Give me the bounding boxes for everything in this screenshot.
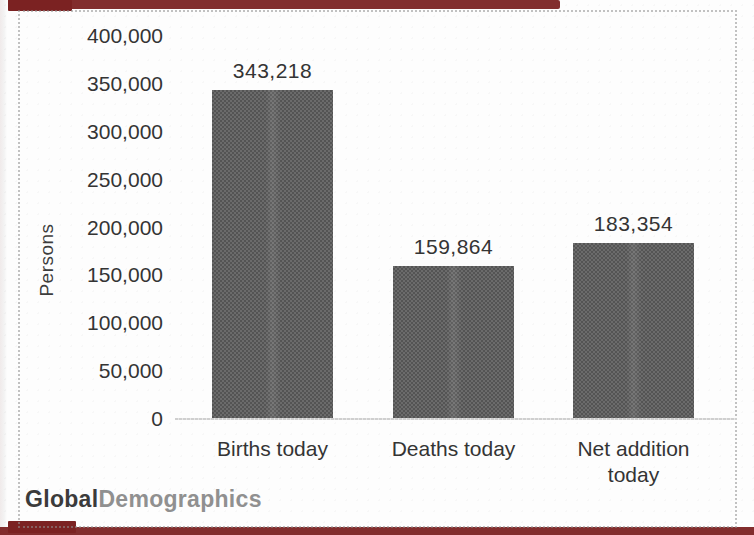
y-tick-label: 250,000 (40, 166, 163, 194)
bar-deaths-today (393, 266, 514, 419)
category-label: Deaths today (368, 436, 540, 462)
y-tick-label: 200,000 (40, 214, 163, 242)
y-tick-label: 0 (40, 405, 163, 433)
y-tick-label: 150,000 (40, 261, 163, 289)
x-axis-line (175, 418, 737, 420)
y-tick-label: 100,000 (40, 309, 163, 337)
y-tick-label: 350,000 (40, 70, 163, 98)
bar-net-addition-today (573, 243, 694, 419)
y-tick-label: 400,000 (40, 22, 163, 50)
y-tick-label: 300,000 (40, 118, 163, 146)
watermark: GlobalDemographics (25, 484, 262, 514)
bar-births-today (212, 90, 333, 419)
watermark-bold-part: Global (25, 486, 98, 512)
scanned-chart-page: Persons 050,000100,000150,000200,000250,… (0, 0, 754, 535)
page-edge-artifact-bottom (0, 527, 754, 535)
page-edge-artifact-top (8, 0, 560, 9)
watermark-light-part: Demographics (98, 486, 261, 512)
y-tick-label: 50,000 (40, 357, 163, 385)
category-label: Births today (187, 436, 359, 462)
category-label: Net addition today (558, 436, 710, 488)
bar-value-label: 183,354 (549, 210, 719, 238)
bar-value-label: 343,218 (188, 57, 358, 85)
bar-value-label: 159,864 (369, 233, 539, 261)
page-left-scan-shadow (0, 0, 7, 535)
